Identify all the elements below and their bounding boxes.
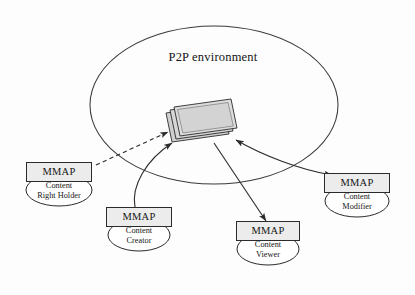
- mmap-box-content-right-holder[interactable]: MMAP: [26, 162, 92, 182]
- p2p-environment-diagram: content stack --> content stack --> Cont…: [0, 0, 415, 295]
- connector-content-to-viewer: [214, 143, 266, 221]
- content-stack-icon: [166, 99, 237, 142]
- role-label-content-viewer: Content Viewer: [237, 239, 299, 260]
- diagram-vector-layer: content stack --> content stack --> Cont…: [0, 0, 415, 295]
- role-label-content-right-holder: Content Right Holder: [26, 180, 92, 201]
- mmap-box-content-modifier[interactable]: MMAP: [324, 173, 390, 193]
- role-label-content-creator: Content Creator: [108, 225, 170, 246]
- connector-right-holder-to-content: [96, 132, 168, 165]
- role-label-content-modifier: Content Modifier: [326, 191, 388, 212]
- environment-title: P2P environment: [128, 50, 298, 65]
- mmap-box-content-creator[interactable]: MMAP: [106, 207, 172, 227]
- connector-creator-to-content: [134, 143, 172, 207]
- mmap-box-content-viewer[interactable]: MMAP: [236, 221, 300, 241]
